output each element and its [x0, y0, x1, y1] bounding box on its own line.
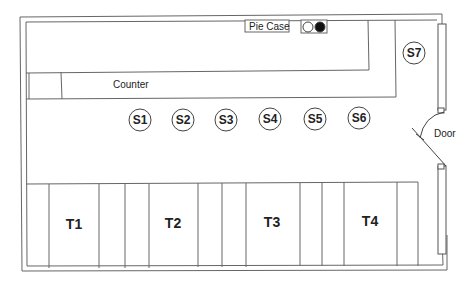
- svg-text:T4: T4: [362, 213, 379, 229]
- door-label: Door: [434, 128, 456, 139]
- table-T2[interactable]: T2: [165, 215, 182, 231]
- stool-S7[interactable]: S7: [403, 42, 425, 64]
- stool-S5[interactable]: S5: [304, 108, 326, 130]
- svg-text:S6: S6: [352, 111, 367, 125]
- svg-text:T1: T1: [66, 216, 83, 232]
- svg-text:S2: S2: [176, 113, 191, 127]
- door: [412, 112, 446, 166]
- outer-walls: [20, 14, 447, 271]
- svg-text:S3: S3: [219, 113, 234, 127]
- floor-plan: Door Counter Pie Case S1 S2 S3 S4: [0, 0, 473, 288]
- pie-case-filled-circle: [315, 22, 325, 32]
- svg-text:T2: T2: [165, 215, 182, 231]
- svg-text:S4: S4: [263, 112, 278, 126]
- stool-S3[interactable]: S3: [215, 109, 237, 131]
- stool-S6[interactable]: S6: [348, 107, 370, 129]
- stool-S2[interactable]: S2: [172, 109, 194, 131]
- stool-S4[interactable]: S4: [259, 108, 281, 130]
- back-counter: [26, 20, 396, 99]
- table-T3[interactable]: T3: [264, 214, 281, 230]
- counter-label: Counter: [113, 79, 149, 90]
- stool-S1[interactable]: S1: [129, 109, 151, 131]
- stools: S1 S2 S3 S4 S5 S6 S7: [129, 42, 425, 131]
- table-T4[interactable]: T4: [362, 213, 379, 229]
- svg-text:S1: S1: [133, 113, 148, 127]
- pie-case-empty-circle: [303, 22, 313, 32]
- booth-row: [26, 182, 418, 268]
- window-lower: [438, 166, 446, 254]
- svg-text:S5: S5: [308, 112, 323, 126]
- pie-case-label: Pie Case: [249, 21, 290, 32]
- window-upper: [438, 24, 446, 110]
- table-T1[interactable]: T1: [66, 216, 83, 232]
- svg-text:T3: T3: [264, 214, 281, 230]
- svg-text:S7: S7: [407, 46, 422, 60]
